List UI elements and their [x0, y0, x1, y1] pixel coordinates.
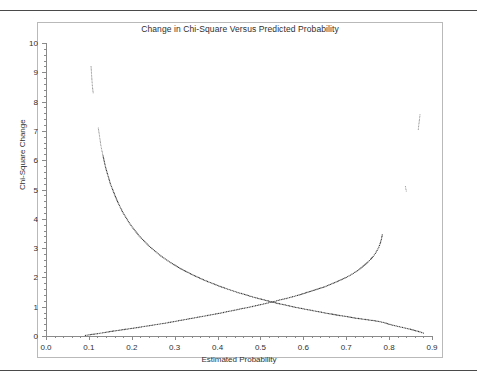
data-point: [328, 284, 329, 285]
data-point: [282, 304, 283, 305]
x-minor-tick: [209, 336, 210, 338]
x-minor-tick: [106, 336, 107, 338]
data-point: [202, 316, 203, 317]
data-point: [109, 180, 110, 181]
data-point: [171, 321, 172, 322]
data-point: [102, 332, 103, 333]
x-axis-line: [46, 336, 432, 337]
data-point: [110, 331, 111, 332]
data-point: [200, 278, 201, 279]
data-point: [276, 302, 277, 303]
x-minor-tick: [406, 336, 407, 338]
data-point: [154, 324, 155, 325]
data-point: [124, 329, 125, 330]
y-tick-label: 5: [34, 185, 38, 194]
data-point: [98, 127, 99, 128]
data-point: [280, 303, 281, 304]
data-point: [360, 267, 361, 268]
data-point: [380, 240, 381, 241]
data-point: [103, 158, 104, 159]
y-tick-label: 4: [34, 214, 38, 223]
data-point: [405, 186, 406, 187]
data-point: [115, 330, 116, 331]
data-point: [126, 218, 127, 219]
data-point: [297, 295, 298, 296]
data-point: [234, 291, 235, 292]
data-point: [298, 294, 299, 295]
data-point: [155, 324, 156, 325]
data-point: [112, 331, 113, 332]
data-point: [375, 253, 376, 254]
data-point: [98, 130, 99, 131]
data-point: [114, 193, 115, 194]
x-minor-tick: [123, 336, 124, 338]
data-point: [174, 265, 175, 266]
data-point: [301, 294, 302, 295]
data-point: [210, 282, 211, 283]
data-point: [416, 330, 417, 331]
data-point: [100, 144, 101, 145]
data-point: [184, 319, 185, 320]
data-point: [348, 316, 349, 317]
data-point: [186, 319, 187, 320]
data-point: [304, 308, 305, 309]
data-point: [220, 313, 221, 314]
data-point: [245, 294, 246, 295]
x-minor-tick: [63, 336, 64, 338]
data-point: [101, 149, 102, 150]
data-point: [347, 276, 348, 277]
x-tick-mark: [132, 336, 133, 340]
data-point: [154, 250, 155, 251]
data-point: [160, 323, 161, 324]
data-point: [194, 317, 195, 318]
data-point: [104, 161, 105, 162]
x-minor-tick: [415, 336, 416, 338]
data-point: [192, 317, 193, 318]
data-point: [103, 157, 104, 158]
data-point: [99, 139, 100, 140]
data-point: [233, 290, 234, 291]
data-point: [236, 309, 237, 310]
data-point: [375, 320, 376, 321]
data-point: [316, 289, 317, 290]
data-point: [224, 311, 225, 312]
data-point: [109, 331, 110, 332]
x-minor-tick: [158, 336, 159, 338]
data-point: [177, 266, 178, 267]
data-point: [244, 308, 245, 309]
data-point: [133, 229, 134, 230]
data-point: [289, 305, 290, 306]
data-point: [184, 270, 185, 271]
y-tick-label: 9: [34, 68, 38, 77]
data-point: [421, 332, 422, 333]
data-point: [294, 296, 295, 297]
x-tick-label: 0.8: [384, 343, 395, 352]
data-point: [315, 289, 316, 290]
data-point: [324, 312, 325, 313]
x-minor-tick: [235, 336, 236, 338]
data-point: [110, 183, 111, 184]
data-point: [91, 67, 92, 68]
data-point: [358, 269, 359, 270]
data-point: [300, 294, 301, 295]
data-point: [157, 324, 158, 325]
data-point: [260, 304, 261, 305]
data-point: [318, 288, 319, 289]
data-point: [337, 315, 338, 316]
data-point: [130, 328, 131, 329]
data-point: [354, 317, 355, 318]
x-minor-tick: [97, 336, 98, 338]
data-point: [101, 146, 102, 147]
data-point: [326, 286, 327, 287]
x-minor-tick: [329, 336, 330, 338]
data-point: [131, 328, 132, 329]
data-point: [100, 332, 101, 333]
data-point: [402, 327, 403, 328]
data-point: [166, 259, 167, 260]
data-point: [242, 308, 243, 309]
data-point: [88, 334, 89, 335]
data-point: [129, 223, 130, 224]
data-point: [92, 88, 93, 89]
data-point: [113, 330, 114, 331]
data-point: [378, 247, 379, 248]
